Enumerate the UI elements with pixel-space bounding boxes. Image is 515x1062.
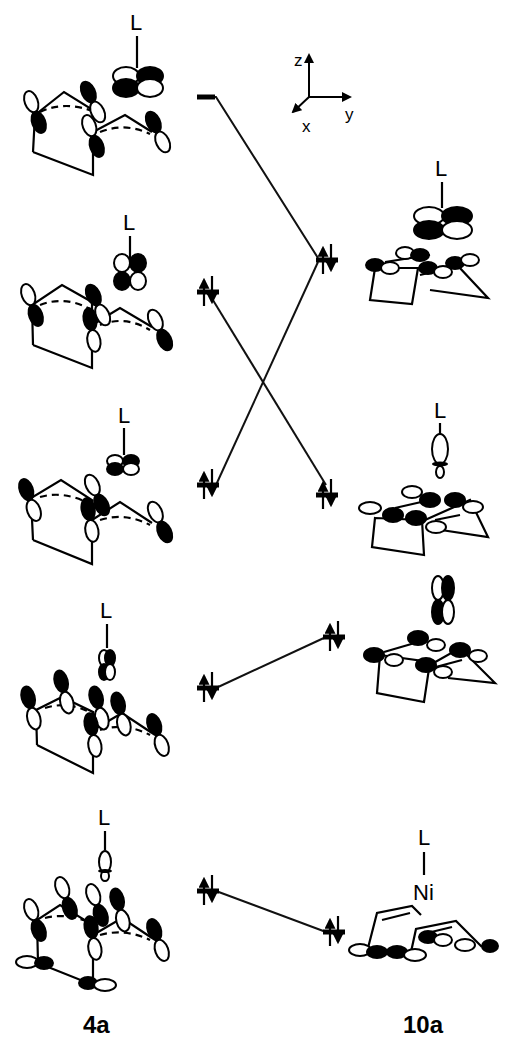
right-orbital-2: L — [359, 398, 488, 555]
p-orbital — [21, 897, 48, 943]
left-level-4-electron-pair — [197, 672, 219, 702]
p-orbital — [109, 691, 133, 737]
left-level-3-electron-pair — [197, 469, 219, 499]
correlation-line-1 — [197, 97, 318, 258]
left-level-2-electron-pair — [197, 276, 219, 306]
axis-y-label: y — [345, 105, 354, 124]
mo-correlation-diagram: z y x L — [0, 0, 515, 1062]
carbon-p-orbitals — [359, 486, 483, 533]
correlation-line-3 — [216, 262, 318, 485]
right-compound-label: 10a — [403, 1011, 444, 1038]
metal-d-orbital — [114, 254, 146, 290]
carbon-p-orbitals — [366, 247, 479, 278]
right-energy-levels — [316, 244, 345, 946]
axis-x-label: x — [302, 117, 311, 136]
right-orbital-3 — [364, 576, 495, 702]
ligand-label: L — [130, 10, 142, 35]
delocalization-dash — [100, 932, 150, 940]
delocalization-dash — [100, 127, 150, 134]
carbon-p-orbitals — [364, 631, 487, 678]
axis-triad: z y x — [293, 51, 354, 136]
metal-d-orbital — [113, 67, 163, 97]
left-orbital-3: L — [16, 403, 175, 564]
left-compound-label: 4a — [83, 1011, 110, 1038]
correlation-line-4 — [216, 637, 326, 688]
right-level-2-electron-pair — [316, 479, 338, 509]
ligand-label: L — [434, 398, 446, 423]
nickel-label: Ni — [413, 880, 434, 905]
ring-outline — [32, 285, 92, 368]
p-orbital — [108, 887, 132, 933]
left-energy-levels — [197, 97, 219, 905]
ligand-label: L — [418, 825, 430, 850]
metal-d-orbital — [107, 455, 139, 475]
p-orbital — [52, 875, 79, 921]
metal-dz2-orbital — [98, 851, 112, 881]
ligand-label: L — [123, 210, 135, 235]
metal-dz2-orbital — [432, 434, 448, 478]
ring-outline — [31, 480, 92, 564]
ligand-label: L — [100, 598, 112, 623]
p-orbital — [21, 89, 48, 135]
left-orbital-2: L — [18, 210, 175, 368]
ligand-label: L — [98, 805, 110, 830]
right-level-4-electron-pair — [323, 916, 345, 946]
metal-d-orbital — [414, 207, 472, 239]
metal-dz-orbital — [99, 650, 115, 680]
delocalization-dash — [100, 517, 150, 525]
ligand-label: L — [435, 156, 447, 181]
left-level-5-electron-pair — [197, 875, 219, 905]
delocalization-dash — [40, 301, 92, 310]
right-orbital-1: L — [366, 156, 488, 304]
double-bond — [435, 515, 460, 520]
x-axis-arrow — [293, 97, 309, 112]
metal-dz-orbital — [432, 576, 454, 624]
left-orbital-4: L — [19, 598, 172, 773]
correlation-line-2 — [208, 292, 326, 485]
right-orbital-4: L Ni — [349, 825, 498, 961]
left-orbital-5: L — [16, 805, 172, 991]
correlation-lines — [197, 97, 326, 932]
axis-z-label: z — [294, 51, 303, 70]
double-bond — [382, 913, 410, 920]
p-orbital — [16, 477, 43, 523]
right-level-1-electron-pair — [316, 244, 338, 274]
left-orbital-1: L — [21, 10, 173, 175]
ligand-label: L — [118, 403, 130, 428]
right-level-3-electron-pair — [323, 621, 345, 651]
p-orbital — [52, 669, 76, 715]
correlation-line-5 — [216, 891, 326, 932]
